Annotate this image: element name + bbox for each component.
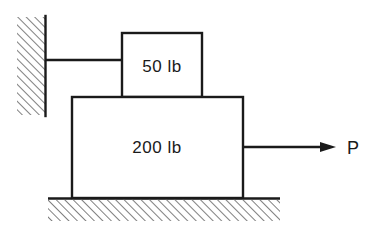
lower-block-label: 200 lb <box>132 138 181 157</box>
force-label-p: P <box>347 138 359 158</box>
ground <box>48 199 280 222</box>
mechanics-diagram: 50 lb 200 lb P <box>0 0 383 240</box>
diagram-canvas: 50 lb 200 lb P <box>0 0 383 240</box>
force-arrow-head <box>320 142 336 152</box>
ground-hatching <box>48 199 280 221</box>
wall <box>17 16 46 116</box>
force-arrow-p <box>243 142 336 152</box>
wall-hatching <box>17 17 46 115</box>
upper-block-label: 50 lb <box>142 57 181 76</box>
